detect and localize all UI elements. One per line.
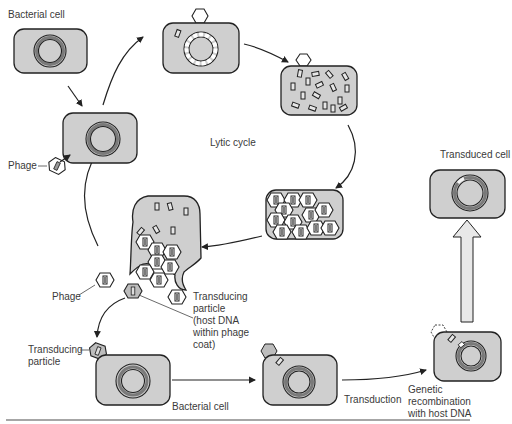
label-transducing-particle-desc: Transducing particle (host DNA within ph…: [192, 291, 252, 350]
bacterial-cell-assembled-phages: [266, 190, 343, 239]
arrow-transduction: [342, 370, 426, 380]
label-transduced-cell: Transduced cell: [440, 149, 510, 160]
label-phage-lower: Phage: [52, 291, 81, 302]
arrow-cycle-left: [85, 150, 99, 246]
bacterial-cell-recombination: [431, 325, 501, 381]
arrow-to-assembly: [336, 125, 355, 188]
label-lytic-cycle: Lytic cycle: [210, 137, 256, 148]
label-genetic-recombination: Genetic recombination with host DNA: [407, 384, 474, 419]
arrow-cell-to-phage-attach: [68, 86, 82, 106]
transduced-cell: Transduced cell: [430, 149, 510, 218]
transducing-particle-released: [124, 284, 142, 298]
arrow-up-to-transduced: [453, 220, 481, 322]
label-bacterial-cell-bottom: Bacterial cell: [172, 401, 229, 412]
bacterial-cell-dna-fragment-injected: [261, 344, 337, 405]
label-transduction: Transduction: [344, 394, 401, 405]
bacterial-cell-dna-injection: [163, 9, 239, 73]
bacterial-cell-infected: Transducing particle Bacterial cell: [28, 341, 229, 412]
lysed-cell: [130, 196, 201, 290]
arrow-to-injection: [103, 37, 143, 105]
bacterial-cell-fragmented-dna: [281, 54, 357, 115]
label-phage-left: Phage: [8, 160, 37, 171]
transduction-diagram: Bacterial cell Phage: [0, 0, 512, 424]
phage-released-2: [168, 290, 186, 304]
arrow-to-new-host: [97, 298, 125, 337]
arrow-to-lysis: [202, 236, 262, 247]
arrow-to-replication: [244, 44, 288, 62]
bacterial-cell-phage-attached: Phage: [8, 113, 137, 176]
phage-released: [96, 273, 114, 287]
label-bacterial-cell-top: Bacterial cell: [8, 9, 65, 20]
bacterial-cell-initial: Bacterial cell: [8, 9, 87, 73]
phage-icon-top: [192, 9, 208, 23]
label-transducing-particle-attach: Transducing particle: [28, 344, 85, 367]
